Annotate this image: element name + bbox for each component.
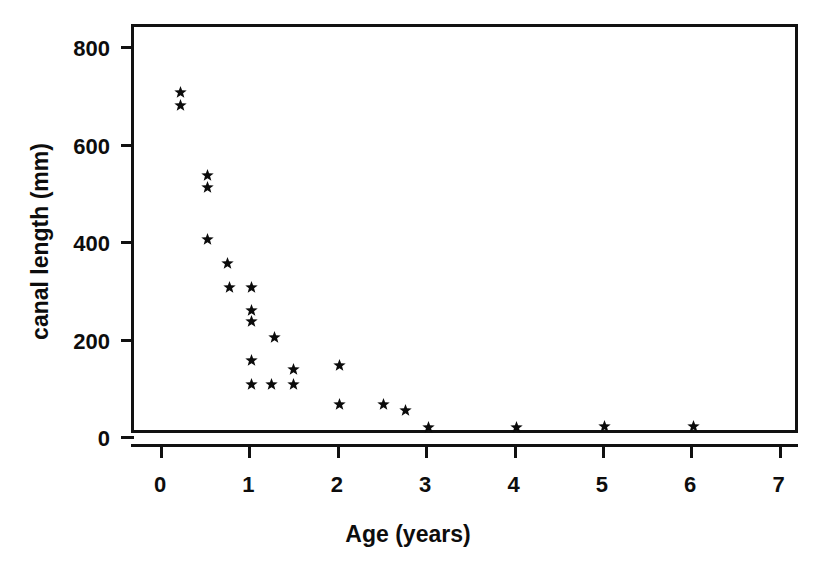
x-axis-tick [514,444,517,458]
data-point [287,363,300,376]
x-axis-tick [602,444,605,458]
x-axis-tick [248,444,251,458]
data-point [598,420,611,433]
y-axis-tick-label: 600 [73,134,110,160]
scatter-plot-figure: 0200400600800 01234567 Age (years) canal… [0,0,816,569]
x-axis-tick [337,444,340,458]
data-point [333,359,346,372]
data-point [221,257,234,270]
y-axis-tick: 0 [121,436,134,439]
x-axis-line [131,444,798,447]
y-axis-tick-label: 200 [73,329,110,355]
x-axis-tick [690,444,693,458]
data-point [687,420,700,433]
data-point [377,398,390,411]
data-point [265,378,278,391]
data-point [245,281,258,294]
plot-frame: 0200400600800 [131,24,798,433]
x-axis-tick [779,444,782,458]
x-axis-tick-label: 6 [684,472,696,498]
y-axis-title: canal length (mm) [27,112,54,372]
data-point [333,398,346,411]
data-point [422,421,435,434]
y-axis-tick: 800 [121,46,134,49]
y-axis-tick: 200 [121,339,134,342]
x-axis-title: Age (years) [0,521,816,548]
data-point [245,354,258,367]
x-axis-tick-label: 5 [596,472,608,498]
y-axis-tick-label: 800 [73,36,110,62]
data-point [245,378,258,391]
x-axis-tick-label: 0 [154,472,166,498]
data-point [245,315,258,328]
data-point [201,233,214,246]
x-axis-tick [425,444,428,458]
x-axis-tick-label: 2 [331,472,343,498]
data-point [510,421,523,434]
data-point [174,86,187,99]
x-axis-tick-label: 1 [242,472,254,498]
data-points-layer [134,27,795,430]
y-axis-tick-label: 0 [98,426,110,452]
data-point [287,378,300,391]
data-point [268,331,281,344]
x-axis-tick-label: 4 [507,472,519,498]
data-point [223,281,236,294]
y-axis-tick: 600 [121,144,134,147]
data-point [201,181,214,194]
x-axis-tick [160,444,163,458]
y-axis-tick: 400 [121,241,134,244]
x-axis-tick-label: 3 [419,472,431,498]
x-axis-tick-label: 7 [772,472,784,498]
data-point [399,404,412,417]
data-point [174,99,187,112]
y-axis-tick-label: 400 [73,231,110,257]
